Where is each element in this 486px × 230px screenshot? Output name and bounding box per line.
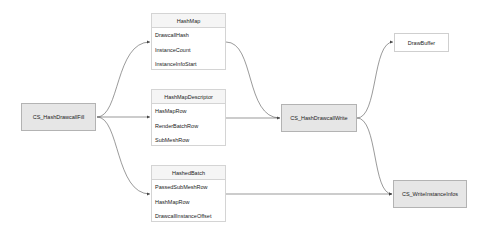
table-hashmapdescriptor[interactable]: HashMapDescriptor HasMapRow RenderBatchR…: [151, 89, 226, 146]
table-title: HashMap: [152, 14, 225, 28]
node-cs-hashdrawcallfill[interactable]: CS_HashDrawcallFill: [21, 103, 96, 131]
table-hashedbatch[interactable]: HashedBatch PassedSubMeshRow HashMapRow …: [151, 165, 226, 222]
table-row: InstanceInfoStart: [152, 57, 225, 72]
node-cs-hashdrawcallwrite[interactable]: CS_HashDrawcallWrite: [281, 104, 357, 132]
node-cs-writeinstanceinfos[interactable]: CS_WriteInstanceInfos: [393, 180, 467, 208]
table-row: HasMapRow: [152, 104, 225, 119]
table-row: InstanceCount: [152, 43, 225, 58]
table-hashmap[interactable]: HashMap DrawcallHash InstanceCount Insta…: [151, 13, 226, 70]
node-drawbuffer[interactable]: DrawBuffer: [394, 33, 449, 52]
node-label: CS_HashDrawcallFill: [33, 114, 85, 120]
table-row: PassedSubMeshRow: [152, 180, 225, 195]
node-label: CS_HashDrawcallWrite: [290, 115, 347, 121]
table-row: RenderBatchRow: [152, 119, 225, 134]
table-row: SubMeshRow: [152, 133, 225, 148]
table-row: DrawcallHash: [152, 28, 225, 43]
table-row: HashMapRow: [152, 195, 225, 210]
diagram-canvas: CS_HashDrawcallFill HashMap DrawcallHash…: [0, 0, 486, 230]
table-row: DrawcallInstanceOffset: [152, 209, 225, 224]
table-title: HashMapDescriptor: [152, 90, 225, 104]
node-label: DrawBuffer: [408, 40, 435, 46]
table-title: HashedBatch: [152, 166, 225, 180]
node-label: CS_WriteInstanceInfos: [402, 191, 458, 197]
